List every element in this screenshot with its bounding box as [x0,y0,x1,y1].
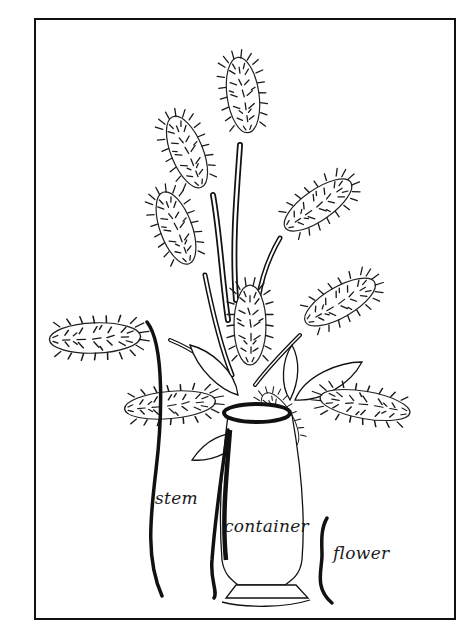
flower-arrangement-illustration [0,0,474,639]
container-label: container [224,516,309,536]
stem-label: stem [155,488,198,508]
stem-bracket [147,322,162,596]
flower-label: flower [333,543,390,563]
flower-heads [49,47,414,455]
flower-bracket [320,518,332,603]
